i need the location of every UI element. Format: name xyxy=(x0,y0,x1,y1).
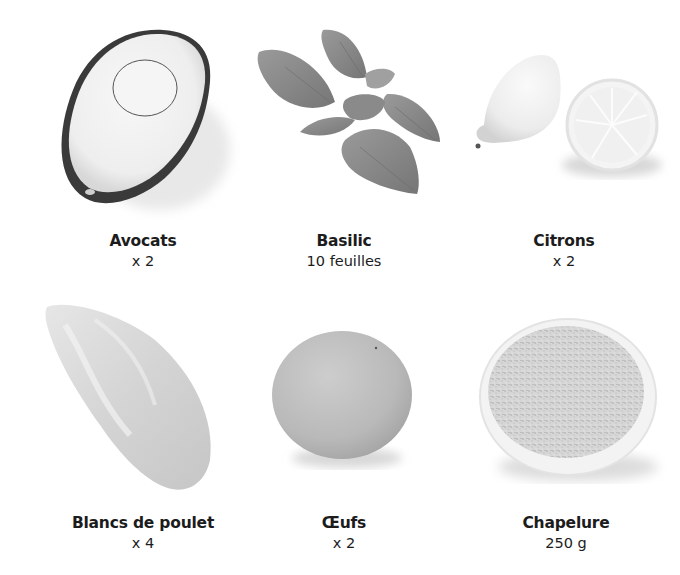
ingredient-name: Blancs de poulet xyxy=(43,513,243,533)
basil-image xyxy=(245,22,455,202)
egg-image xyxy=(262,320,422,480)
ingredient-label: Citrons x 2 xyxy=(464,231,664,271)
ingredient-label: Avocats x 2 xyxy=(43,231,243,271)
ingredient-name: Citrons xyxy=(464,231,664,251)
ingredient-quantity: x 2 xyxy=(244,533,444,553)
ingredient-label: Œufs x 2 xyxy=(244,513,444,553)
ingredient-name: Avocats xyxy=(43,231,243,251)
ingredient-label: Chapelure 250 g xyxy=(466,513,666,553)
ingredient-quantity: 10 feuilles xyxy=(244,251,444,271)
lemon-image xyxy=(462,40,672,190)
chicken-breast-image xyxy=(35,295,225,500)
ingredient-name: Basilic xyxy=(244,231,444,251)
ingredient-name: Chapelure xyxy=(466,513,666,533)
ingredient-label: Blancs de poulet x 4 xyxy=(43,513,243,553)
ingredient-label: Basilic 10 feuilles xyxy=(244,231,444,271)
avocado-image xyxy=(45,20,245,220)
ingredient-quantity: x 2 xyxy=(464,251,664,271)
ingredient-quantity: x 4 xyxy=(43,533,243,553)
ingredient-quantity: x 2 xyxy=(43,251,243,271)
ingredient-quantity: 250 g xyxy=(466,533,666,553)
ingredient-name: Œufs xyxy=(244,513,444,533)
breadcrumbs-image xyxy=(468,312,668,492)
